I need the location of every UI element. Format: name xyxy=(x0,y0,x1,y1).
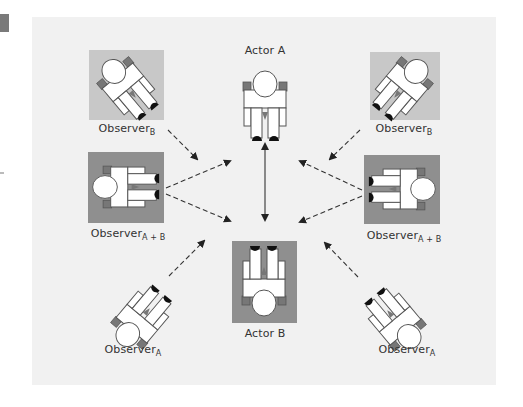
arrow-observer-ab-right-lower xyxy=(300,196,362,222)
actor-a-figure xyxy=(243,71,287,141)
observer-ab-right-label: ObserverA + B xyxy=(367,229,442,244)
observer-label-sub: B xyxy=(427,128,433,137)
observer-ab-left-label: ObserverA + B xyxy=(91,227,166,242)
observer-label-base: Observer xyxy=(367,229,418,242)
observation-diagram xyxy=(0,0,523,407)
observer-label-base: Observer xyxy=(91,227,142,240)
arrow-observer-ab-left-lower xyxy=(166,194,230,221)
observer-label-base: Observer xyxy=(105,343,156,356)
arrow-observer-ab-right-upper xyxy=(300,161,362,190)
observer-label-base: Observer xyxy=(379,343,430,356)
observer-a-left-label: ObserverA xyxy=(105,343,162,358)
actor-a-label: Actor A xyxy=(245,44,286,57)
arrow-observer-a-right xyxy=(325,243,358,277)
arrow-observer-b-left xyxy=(168,130,197,159)
actor-b-label: Actor B xyxy=(245,327,286,340)
observer-label-base: Observer xyxy=(376,122,427,135)
observer-label-sub: A xyxy=(156,349,162,358)
arrow-observer-a-left xyxy=(169,241,204,276)
arrow-observer-b-right xyxy=(330,130,360,159)
observer-label-sub: A + B xyxy=(142,233,165,242)
observer-a-right-label: ObserverA xyxy=(379,343,436,358)
observer-label-sub: A xyxy=(430,349,436,358)
observer-label-sub: A + B xyxy=(418,235,441,244)
observer-b-right-label: ObserverB xyxy=(376,122,433,137)
observer-label-sub: B xyxy=(150,128,156,137)
observer-label-base: Observer xyxy=(99,122,150,135)
observer-b-left-label: ObserverB xyxy=(99,122,156,137)
arrow-observer-ab-left-upper xyxy=(166,161,230,188)
